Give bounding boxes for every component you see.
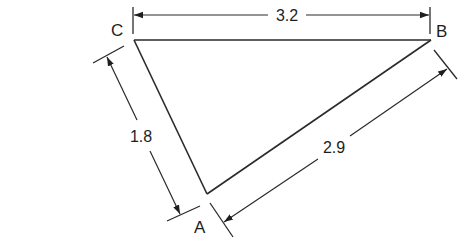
dimension-line-ca-upper	[107, 57, 137, 120]
vertex-label-c: C	[111, 21, 123, 40]
dimension-line-ab-lower	[224, 159, 318, 222]
extension-line-b-right	[434, 50, 457, 79]
triangle-diagram: C B A 3.2 1.8 2.9	[0, 0, 459, 240]
edge-ab	[207, 40, 431, 194]
dimension-line-ca-lower	[150, 151, 180, 214]
vertex-label-a: A	[194, 218, 206, 237]
vertex-label-b: B	[436, 22, 447, 41]
extension-line-a-right	[210, 203, 233, 237]
triangle	[134, 40, 431, 194]
dimension-label-ab: 2.9	[323, 139, 345, 156]
edge-ca	[134, 40, 207, 194]
dimension-line-ab-upper	[350, 69, 447, 136]
dimension-label-ca: 1.8	[130, 128, 152, 145]
dimension-label-cb: 3.2	[276, 7, 298, 24]
